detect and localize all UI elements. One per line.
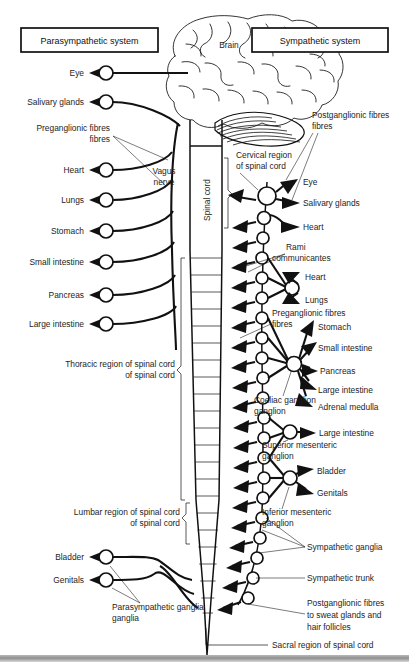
superior-cervical-ganglion bbox=[258, 187, 276, 205]
sym-thoracic-relay: Heart Lungs bbox=[268, 258, 328, 305]
inferior-mesenteric-ganglion bbox=[283, 471, 297, 485]
para-target-large-intestine: Large intestine bbox=[29, 306, 176, 331]
callout-cervical-region-line1: Cervical region bbox=[236, 150, 292, 160]
callout-postganglionic-fibres-line2: fibres bbox=[312, 121, 332, 131]
sym-label-adrenal-medulla: Adrenal medulla bbox=[318, 402, 379, 412]
parasympathetic-pathways: Eye Salivary glands Heart Lungs bbox=[27, 66, 204, 623]
para-label-salivary-glands: Salivary glands bbox=[27, 97, 84, 107]
brain-label: Brain bbox=[219, 40, 239, 50]
callout-sympathetic-ganglia-label: Sympathetic ganglia bbox=[307, 542, 383, 552]
para-target-small-intestine: Small intestine bbox=[30, 242, 174, 269]
callout-postganglionic-fibres-line1: Postganglionic fibres bbox=[312, 110, 389, 120]
callout-preganglionic-fibres-left-line2: fibres bbox=[90, 134, 110, 144]
coeliac-ganglion-group: Stomach Small intestine Pancreas Large i… bbox=[254, 318, 379, 416]
sympathetic-system-label: Sympathetic system bbox=[280, 36, 361, 46]
sym-label-bladder: Bladder bbox=[317, 466, 346, 476]
superior-mesenteric-ganglion-group: Large intestine Superior mesenteric gang… bbox=[262, 418, 374, 461]
para-label-large-intestine: Large intestine bbox=[29, 319, 84, 329]
sym-label-large-intestine-smg: Large intestine bbox=[319, 428, 374, 438]
callout-sweat-line1: Postganglionic fibres bbox=[307, 598, 384, 608]
sym-label-lungs: Lungs bbox=[305, 295, 328, 305]
cerebellum bbox=[215, 112, 304, 146]
para-label-small-intestine: Small intestine bbox=[30, 257, 85, 267]
para-label-heart: Heart bbox=[64, 165, 85, 175]
sym-label-heart-thoracic: Heart bbox=[305, 272, 326, 282]
callout-parasympathetic-ganglia: Parasympathetic ganglia ganglia bbox=[110, 566, 204, 623]
callout-postganglionic-sweat: Postganglionic fibres to sweat glands an… bbox=[248, 598, 384, 632]
para-target-salivary-glands: Salivary glands bbox=[27, 95, 180, 126]
vagus-nerve-label-line1: Vagus bbox=[152, 166, 175, 176]
lumbar-region-label-line2: of spinal cord bbox=[130, 518, 180, 528]
superior-mesenteric-ganglion bbox=[283, 425, 297, 439]
vagus-nerve-label-line2: nerve bbox=[154, 177, 175, 187]
callout-sacral-region-label: Sacral region of spinal cord bbox=[272, 640, 374, 650]
callout-sweat-line3: hair follicles bbox=[307, 622, 351, 632]
diagram-canvas: Brain S bbox=[0, 0, 409, 668]
callout-sympathetic-trunk: Sympathetic trunk bbox=[256, 573, 375, 583]
callout-preganglionic-fibres-left-line1: Preganglionic fibres bbox=[36, 123, 110, 133]
callout-coeliac-ganglion-line1: Coeliac ganglion bbox=[254, 395, 316, 405]
para-label-genitals: Genitals bbox=[53, 575, 84, 585]
spinal-cord-label: Spinal cord bbox=[202, 179, 212, 221]
para-label-bladder: Bladder bbox=[55, 552, 84, 562]
sym-label-salivary-glands: Salivary glands bbox=[303, 198, 360, 208]
para-label-pancreas: Pancreas bbox=[49, 290, 84, 300]
page-footer-bar bbox=[0, 655, 409, 662]
spinal-cord: Spinal cord bbox=[190, 120, 222, 655]
sym-label-heart-cervical: Heart bbox=[303, 222, 324, 232]
callout-sweat-line2: to sweat glands and bbox=[307, 610, 382, 620]
callout-preganglionic-right-line2: fibres bbox=[272, 319, 292, 329]
sym-label-large-intestine-coeliac: Large intestine bbox=[318, 385, 373, 395]
callout-superior-mesenteric-line2: ganglion bbox=[262, 451, 294, 461]
callout-preganglionic-right-line1: Preganglionic fibres bbox=[272, 308, 346, 318]
callout-parasympathetic-ganglia-line1: Parasympathetic ganglia bbox=[112, 602, 204, 612]
parasympathetic-system-label: Parasympathetic system bbox=[40, 36, 138, 46]
thoracic-region-label-line2: of spinal cord bbox=[125, 370, 175, 380]
autonomic-nervous-system-diagram: Brain S bbox=[0, 0, 409, 668]
para-target-eye: Eye bbox=[70, 66, 188, 80]
inferior-mesenteric-ganglion-group: Bladder Genitals Inferior mesenteric gan… bbox=[262, 458, 348, 528]
para-target-stomach: Stomach bbox=[51, 211, 173, 238]
header-boxes: Parasympathetic system Sympathetic syste… bbox=[21, 28, 388, 52]
sym-label-eye: Eye bbox=[303, 177, 318, 187]
para-target-pancreas: Pancreas bbox=[49, 275, 175, 302]
sym-cervical-outputs: Eye Salivary glands Heart bbox=[270, 177, 360, 233]
callout-coeliac-ganglion-line2: ganglion bbox=[254, 406, 286, 416]
callout-superior-mesenteric-line1: Superior mesenteric bbox=[262, 440, 337, 450]
para-label-lungs: Lungs bbox=[61, 195, 84, 205]
lumbar-region-label-line1: Lumbar region of spinal cord bbox=[74, 507, 180, 517]
thoracic-region-label-line1: Thoracic region of spinal cord bbox=[65, 359, 175, 369]
para-label-stomach: Stomach bbox=[51, 226, 84, 236]
sym-label-small-intestine: Small intestine bbox=[318, 343, 373, 353]
callout-parasympathetic-ganglia-line2: ganglia bbox=[112, 613, 139, 623]
para-label-eye: Eye bbox=[70, 68, 85, 78]
callout-rami-line2: communicantes bbox=[272, 253, 331, 263]
callout-sympathetic-trunk-label: Sympathetic trunk bbox=[307, 573, 375, 583]
sym-label-genitals: Genitals bbox=[317, 488, 348, 498]
callout-inferior-mesenteric-line1: Inferior mesenteric bbox=[262, 507, 331, 517]
sym-label-pancreas: Pancreas bbox=[320, 366, 355, 376]
callout-cervical-region-line2: of spinal cord bbox=[236, 161, 286, 171]
sym-label-stomach: Stomach bbox=[318, 322, 351, 332]
callout-postganglionic-fibres: Postganglionic fibres fibres bbox=[286, 110, 389, 200]
callout-inferior-mesenteric-line2: ganglion bbox=[262, 518, 294, 528]
callout-rami-line1: Rami bbox=[286, 242, 306, 252]
